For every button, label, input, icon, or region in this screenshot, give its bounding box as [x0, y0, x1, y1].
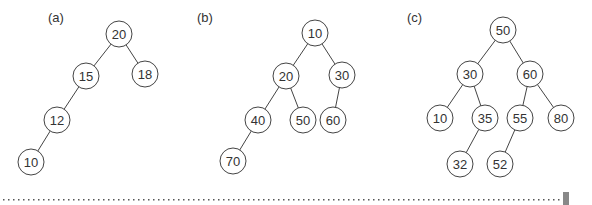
- tree-diagrams-svg: 2015181210102030405060705030601035558032…: [0, 0, 592, 205]
- node-value: 20: [112, 27, 126, 42]
- tree-node: 60: [320, 107, 346, 133]
- node-value: 55: [513, 111, 527, 126]
- dotted-separator: [3, 192, 569, 205]
- node-value: 50: [496, 23, 510, 38]
- node-value: 70: [226, 154, 240, 169]
- node-value: 18: [138, 67, 152, 82]
- labels-layer: (a)(b)(c): [48, 10, 422, 25]
- tree-node: 18: [132, 61, 158, 87]
- tree-node: 10: [18, 149, 44, 175]
- end-marker: [563, 192, 569, 205]
- tree-node: 32: [447, 151, 473, 177]
- tree-node: 55: [507, 105, 533, 131]
- tree-node: 30: [457, 61, 483, 87]
- tree-label: (c): [407, 10, 422, 25]
- node-value: 10: [308, 26, 322, 41]
- node-value: 30: [463, 67, 477, 82]
- tree-node: 35: [472, 105, 498, 131]
- tree-node: 52: [487, 151, 513, 177]
- tree-node: 15: [73, 63, 99, 89]
- tree-label: (b): [197, 10, 213, 25]
- tree-node: 30: [329, 62, 355, 88]
- node-value: 12: [50, 113, 64, 128]
- tree-node: 80: [548, 105, 574, 131]
- tree-node: 70: [220, 148, 246, 174]
- tree-node: 10: [302, 20, 328, 46]
- node-value: 60: [523, 67, 537, 82]
- tree-node: 60: [517, 61, 543, 87]
- node-value: 60: [326, 113, 340, 128]
- node-value: 80: [554, 111, 568, 126]
- edges-layer: [31, 30, 561, 164]
- tree-node: 50: [290, 107, 316, 133]
- tree-node: 20: [106, 21, 132, 47]
- node-value: 32: [453, 157, 467, 172]
- tree-label: (a): [48, 10, 64, 25]
- tree-diagram-figure: 2015181210102030405060705030601035558032…: [0, 0, 592, 205]
- node-value: 15: [79, 69, 93, 84]
- tree-node: 20: [273, 63, 299, 89]
- node-value: 50: [296, 113, 310, 128]
- node-value: 35: [478, 111, 492, 126]
- node-value: 52: [493, 157, 507, 172]
- tree-node: 50: [490, 17, 516, 43]
- node-value: 30: [335, 68, 349, 83]
- tree-node: 40: [245, 107, 271, 133]
- tree-node: 12: [44, 107, 70, 133]
- nodes-layer: 2015181210102030405060705030601035558032…: [18, 17, 574, 177]
- node-value: 20: [279, 69, 293, 84]
- node-value: 10: [24, 155, 38, 170]
- tree-node: 10: [427, 105, 453, 131]
- node-value: 40: [251, 113, 265, 128]
- node-value: 10: [433, 111, 447, 126]
